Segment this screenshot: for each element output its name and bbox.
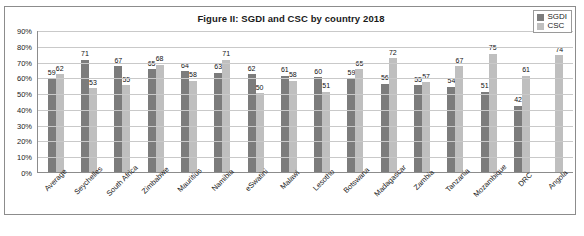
y-tick-label: 10%: [17, 153, 32, 162]
bar-value-label: 68: [156, 55, 164, 62]
x-tick-label: DRC: [516, 171, 534, 189]
gridline: [38, 110, 573, 111]
bar-sgdi[interactable]: 71: [81, 60, 89, 172]
bar-group: 5175: [472, 31, 505, 172]
bar-group: 5557: [405, 31, 438, 172]
bar-group: 4261: [505, 31, 538, 172]
bar-value-label: 59: [48, 69, 56, 76]
bar-group: 6458: [172, 31, 205, 172]
bar-value-label: 72: [389, 49, 397, 56]
x-tick: Malawi: [272, 174, 306, 220]
bar-value-label: 71: [222, 50, 230, 57]
y-tick-label: 20%: [17, 137, 32, 146]
bar-value-label: 61: [522, 66, 530, 73]
bar-csc[interactable]: 67: [455, 66, 463, 172]
bar-csc[interactable]: 75: [489, 54, 497, 172]
x-tick: Zambia: [406, 174, 440, 220]
bar-value-label: 58: [189, 71, 197, 78]
bar-group: 6051: [306, 31, 339, 172]
bar-value-label: 71: [81, 50, 89, 57]
x-tick: Namibia: [205, 174, 239, 220]
bar-sgdi[interactable]: 56: [381, 84, 389, 172]
bar-groups: 5962715367556568645863716250615860515965…: [38, 31, 573, 172]
bar-csc[interactable]: 57: [422, 82, 430, 172]
bar-csc[interactable]: 72: [389, 58, 397, 172]
x-tick: Zimbabwe: [138, 174, 172, 220]
bar-value-label: 42: [514, 96, 522, 103]
bar-group: 5672: [372, 31, 405, 172]
bar-group: 6371: [206, 31, 239, 172]
bar-value-label: 51: [322, 82, 330, 89]
bar-sgdi[interactable]: 67: [114, 66, 122, 172]
bar-csc[interactable]: 51: [322, 92, 330, 172]
bar-group: 6158: [272, 31, 305, 172]
gridline: [38, 78, 573, 79]
chart-title: Figure II: SGDI and CSC by country 2018: [5, 13, 577, 24]
gridline: [38, 157, 573, 158]
bar-group: 6568: [139, 31, 172, 172]
gridline: [38, 47, 573, 48]
bar-csc[interactable]: 68: [156, 65, 164, 172]
y-tick-label: 60%: [17, 74, 32, 83]
y-axis: 0%10%20%30%40%50%60%70%80%90%: [5, 31, 35, 173]
bar-csc[interactable]: 50: [256, 93, 264, 172]
legend-item-sgdi[interactable]: SGDI: [537, 13, 567, 21]
chart-legend: SGDI CSC: [533, 10, 572, 33]
legend-label-sgdi: SGDI: [547, 13, 567, 21]
legend-swatch-csc: [537, 23, 544, 30]
plot-canvas: 5962715367556568645863716250615860515965…: [37, 31, 573, 173]
y-tick-label: 0%: [21, 169, 32, 178]
gridline: [38, 126, 573, 127]
gridline: [38, 63, 573, 64]
bar-sgdi[interactable]: 54: [447, 87, 455, 172]
legend-item-csc[interactable]: CSC: [537, 22, 567, 30]
bar-csc[interactable]: 71: [222, 60, 230, 172]
bar-group: 6755: [106, 31, 139, 172]
bar-sgdi[interactable]: 55: [414, 85, 422, 172]
x-tick: Lesotho: [305, 174, 339, 220]
bar-csc[interactable]: 53: [89, 88, 97, 172]
bar-group: 7153: [72, 31, 105, 172]
x-tick: Mozambique: [473, 174, 507, 220]
bar-group: 74: [539, 31, 572, 172]
bar-value-label: 51: [481, 82, 489, 89]
bar-group: 6250: [239, 31, 272, 172]
bar-value-label: 61: [281, 66, 289, 73]
x-tick: eSwatini: [238, 174, 272, 220]
bar-value-label: 59: [348, 69, 356, 76]
y-tick-label: 90%: [17, 27, 32, 36]
bar-csc[interactable]: 55: [122, 85, 130, 172]
legend-swatch-sgdi: [537, 14, 544, 21]
x-tick: Average: [37, 174, 71, 220]
x-axis-labels: AverageSeychellesSouth AfricaZimbabweMau…: [37, 174, 573, 220]
legend-label-csc: CSC: [547, 22, 564, 30]
bar-sgdi[interactable]: 42: [514, 106, 522, 172]
bar-value-label: 58: [289, 71, 297, 78]
y-tick-label: 30%: [17, 121, 32, 130]
plot-area: 0%10%20%30%40%50%60%70%80%90% 5962715367…: [5, 31, 577, 197]
gridline: [38, 31, 573, 32]
x-tick: Madagascar: [372, 174, 406, 220]
y-tick-label: 70%: [17, 58, 32, 67]
bar-group: 5965: [339, 31, 372, 172]
bar-sgdi[interactable]: 51: [481, 92, 489, 172]
x-tick: Botswana: [339, 174, 373, 220]
gridline: [38, 94, 573, 95]
bar-value-label: 62: [56, 65, 64, 72]
bar-value-label: 62: [248, 65, 256, 72]
y-tick-label: 50%: [17, 90, 32, 99]
x-tick: Angola: [540, 174, 574, 220]
chart-frame: Figure II: SGDI and CSC by country 2018 …: [4, 6, 576, 215]
gridline: [38, 141, 573, 142]
x-tick: Tanzania: [439, 174, 473, 220]
chart-screenshot: Figure II: SGDI and CSC by country 2018 …: [0, 0, 584, 236]
x-tick: Seychelles: [71, 174, 105, 220]
bar-group: 5467: [439, 31, 472, 172]
bar-value-label: 53: [89, 79, 97, 86]
bar-value-label: 60: [314, 68, 322, 75]
x-tick: South Africa: [104, 174, 138, 220]
bar-group: 5962: [39, 31, 72, 172]
y-tick-label: 80%: [17, 42, 32, 51]
bar-csc[interactable]: 74: [555, 55, 563, 172]
x-tick: Mauritius: [171, 174, 205, 220]
